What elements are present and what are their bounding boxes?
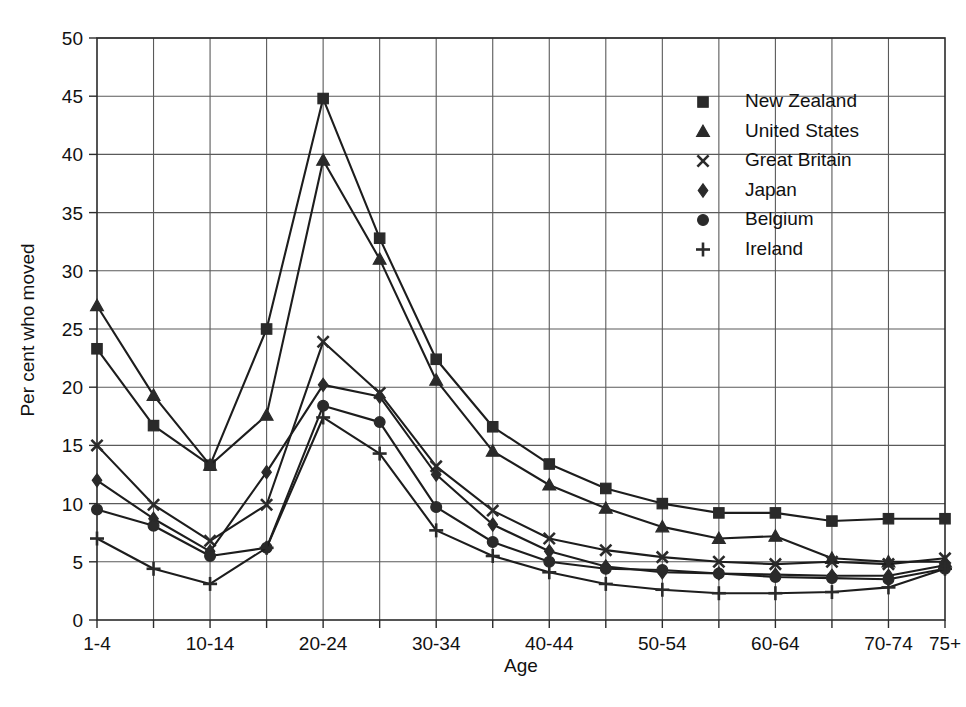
y-tick-label: 0 bbox=[72, 610, 83, 631]
marker-circle bbox=[374, 417, 385, 428]
y-tick-label: 20 bbox=[62, 377, 83, 398]
y-axis-title: Per cent who moved bbox=[17, 243, 38, 416]
marker-square bbox=[657, 498, 667, 508]
marker-square bbox=[601, 483, 611, 493]
legend-item-label: Ireland bbox=[745, 238, 803, 259]
marker-square bbox=[318, 93, 328, 103]
marker-circle bbox=[770, 572, 781, 583]
marker-square bbox=[92, 344, 102, 354]
marker-square bbox=[431, 354, 441, 364]
x-tick-label: 60-64 bbox=[751, 633, 800, 654]
x-tick-label: 50-54 bbox=[638, 633, 687, 654]
y-tick-label: 25 bbox=[62, 319, 83, 340]
marker-circle bbox=[318, 400, 329, 411]
legend-item-label: Belgium bbox=[745, 208, 814, 229]
line-chart: 05101520253035404550 1-410-1420-2430-344… bbox=[0, 0, 966, 707]
marker-circle bbox=[713, 568, 724, 579]
legend-item-label: United States bbox=[745, 120, 859, 141]
x-tick-label: 70-74 bbox=[864, 633, 913, 654]
marker-circle bbox=[431, 502, 442, 513]
legend-item-label: Japan bbox=[745, 179, 797, 200]
legend-item-label: New Zealand bbox=[745, 90, 857, 111]
y-tick-label: 30 bbox=[62, 261, 83, 282]
marker-square bbox=[488, 422, 498, 432]
marker-circle bbox=[487, 537, 498, 548]
y-tick-label: 50 bbox=[62, 28, 83, 49]
y-tick-label: 35 bbox=[62, 203, 83, 224]
marker-square bbox=[883, 514, 893, 524]
marker-circle bbox=[148, 520, 159, 531]
marker-circle bbox=[827, 573, 838, 584]
marker-square bbox=[148, 420, 158, 430]
x-axis-title: Age bbox=[504, 655, 538, 676]
y-tick-label: 5 bbox=[72, 552, 83, 573]
marker-square bbox=[827, 516, 837, 526]
x-tick-label: 20-24 bbox=[299, 633, 348, 654]
chart-container: 05101520253035404550 1-410-1420-2430-344… bbox=[0, 0, 966, 707]
x-tick-label: 1-4 bbox=[83, 633, 111, 654]
marker-square bbox=[698, 97, 708, 107]
legend-item-label: Great Britain bbox=[745, 149, 852, 170]
marker-circle bbox=[600, 563, 611, 574]
x-tick-label: 10-14 bbox=[186, 633, 235, 654]
marker-square bbox=[261, 324, 271, 334]
x-tick-label: 30-34 bbox=[412, 633, 461, 654]
marker-circle bbox=[92, 504, 103, 515]
y-tick-label: 15 bbox=[62, 435, 83, 456]
x-tick-label: 40-44 bbox=[525, 633, 574, 654]
marker-square bbox=[374, 233, 384, 243]
marker-circle bbox=[657, 565, 668, 576]
x-tick-label: 75+ bbox=[929, 633, 961, 654]
marker-square bbox=[770, 508, 780, 518]
marker-square bbox=[714, 508, 724, 518]
y-tick-label: 10 bbox=[62, 494, 83, 515]
marker-circle bbox=[205, 551, 216, 562]
marker-circle bbox=[698, 215, 709, 226]
y-tick-label: 45 bbox=[62, 86, 83, 107]
y-tick-label: 40 bbox=[62, 144, 83, 165]
marker-square bbox=[544, 459, 554, 469]
marker-square bbox=[940, 514, 950, 524]
